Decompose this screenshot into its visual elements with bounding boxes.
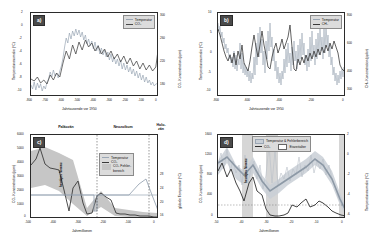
ytick: 2 [21, 11, 23, 14]
xtick: -600 [244, 99, 250, 102]
legend-label: CH₄ [322, 22, 328, 26]
panel-a-legend: Temperatur CO₂ [123, 15, 155, 29]
annotation-heutiges-niveau-c: heutiges Niveau [60, 163, 64, 187]
ytick: 1000 [17, 203, 24, 206]
panel-a-ylabel-left: Temperaturanomalie (°C) [12, 42, 16, 80]
xtick: -300 [75, 221, 81, 224]
panel-c-legend: Temperatur CO₂ CO₂ Fehler- bereich [99, 153, 134, 176]
ytick: 800 [207, 173, 212, 176]
ytick-right: 220 [160, 60, 165, 63]
ytick: 1200 [205, 153, 212, 156]
ytick: 5 [210, 31, 212, 34]
ytick-right: 300 [347, 88, 352, 91]
panel-c: Temperatur CO₂ CO₂ Fehler- bereich c) Pa… [0, 121, 187, 243]
ytick: -2 [19, 37, 22, 40]
panel-d-plot: Temperatur & Fehlerbereich CO₂ Eiszeital… [217, 134, 345, 218]
xtick: -500 [25, 221, 31, 224]
ytick-right: -2 [347, 173, 350, 176]
ytick: 400 [207, 193, 212, 196]
xtick: -20 [289, 221, 293, 224]
ytick-right: -4 [347, 193, 350, 196]
legend-label: CO₂ [135, 22, 141, 26]
xtick: -50 [214, 221, 218, 224]
ytick-right: 800 [347, 14, 352, 17]
ytick: -6 [19, 63, 22, 66]
panel-b-ylabel-right: CH₄-Konzentration (ppbv) [365, 49, 369, 88]
legend-swatch-temperatur [126, 19, 133, 20]
ytick-right: 28 [160, 173, 163, 176]
panel-d: Temperatur & Fehlerbereich CO₂ Eiszeital… [187, 121, 374, 243]
xtick: -600 [58, 99, 64, 102]
legend-swatch-co2 [126, 24, 133, 25]
legend-swatch-co2 [102, 162, 109, 163]
legend-label: Temperatur & Fehlerbereich [266, 139, 308, 143]
panel-b-legend: Temperatur CH₄ [310, 15, 342, 29]
ytick: 6000 [17, 133, 24, 136]
ytick-right: 0 [347, 153, 349, 156]
panel-c-ylabel-right: globale Temperatur (°C) [178, 173, 182, 209]
ytick-right: 20 [160, 201, 163, 204]
legend-swatch-temperatur [313, 19, 320, 20]
ytick: -10 [17, 89, 21, 92]
ytick: 10 [208, 11, 211, 14]
panel-c-xlabel: Jahrmillionen [72, 229, 92, 233]
legend-swatch-ch4 [313, 24, 320, 25]
panel-d-ylabel-right: Temperaturanomalie (°C) [365, 173, 369, 211]
legend-swatch-co2 [255, 146, 262, 147]
panel-b-plot: Temperatur CH₄ [217, 12, 345, 96]
xtick: -200 [122, 99, 128, 102]
xtick: 0 [341, 221, 343, 224]
legend-label: Eiszeitalter [289, 145, 306, 149]
ytick-right: 16 [160, 214, 163, 217]
ytick-right: 600 [347, 42, 352, 45]
xtick: -100 [125, 221, 131, 224]
xtick: -200 [100, 221, 106, 224]
panel-c-series [31, 135, 158, 218]
panel-b-ylabel-left: Temperaturanomalie (°C) [199, 42, 203, 80]
ytick-right: 24 [160, 187, 163, 190]
panel-tag-d: d) [220, 137, 233, 148]
ytick-right: 2 [347, 133, 349, 136]
legend-swatch-fehlerbereich [102, 164, 111, 170]
panel-b: Temperatur CH₄ b) 10 5 0 -5 -10 800 600 … [187, 0, 374, 121]
panel-tag-a: a) [33, 15, 45, 26]
ytick: 0 [211, 214, 213, 217]
legend-item: CO₂ Fehler- bereich [102, 164, 131, 173]
ytick: 5000 [17, 147, 24, 150]
ytick: -10 [206, 89, 210, 92]
legend-swatch-temperatur-fehlerbereich [255, 139, 264, 145]
panel-tag-c: c) [33, 137, 45, 148]
region-label-palaeozaen: Paläozän [40, 125, 92, 129]
legend-swatch-temperatur [102, 157, 109, 158]
ytick: 1600 [205, 133, 212, 136]
annotation-heutiges-niveau-d: heutiges Niveau [245, 159, 249, 183]
panel-c-plot: Temperatur CO₂ CO₂ Fehler- bereich [30, 134, 158, 218]
xtick: -10 [314, 221, 318, 224]
xtick: 0 [342, 99, 344, 102]
xtick: -30 [264, 221, 268, 224]
xtick: -400 [276, 99, 282, 102]
ytick: -4 [19, 50, 22, 53]
xtick: -800 [213, 99, 219, 102]
ytick-right: -6 [347, 213, 350, 216]
legend-item: CO₂ Eiszeitalter [255, 144, 308, 150]
xtick: -100 [138, 99, 144, 102]
legend-swatch-eiszeitalter [278, 144, 287, 150]
panel-tag-b: b) [220, 15, 233, 26]
legend-item: CO₂ [126, 22, 152, 26]
panel-d-legend: Temperatur & Fehlerbereich CO₂ Eiszeital… [252, 136, 311, 152]
xtick: 0 [155, 99, 157, 102]
ytick-right: 400 [347, 70, 352, 73]
panel-a-ylabel-right: CO₂-Konzentration (ppm) [178, 50, 182, 88]
ytick-right: 180 [160, 83, 165, 86]
ytick: 4000 [17, 161, 24, 164]
panel-c-ylabel-left: CO₂-Konzentration (ppm) [12, 165, 16, 203]
panel-a-xlabel: Jahrtausende vor 1950 [62, 107, 97, 111]
ytick: 0 [210, 51, 212, 54]
xtick: -400 [50, 221, 56, 224]
legend-label: CO₂ Fehler- bereich [113, 164, 131, 173]
xtick: 0 [153, 221, 155, 224]
region-label-neozoikum: Neozoikum [98, 125, 148, 129]
ytick: -5 [208, 71, 211, 74]
climate-figure: Temperatur CO₂ a) 2 0 -2 -4 -6 -8 -10 30… [0, 0, 374, 243]
